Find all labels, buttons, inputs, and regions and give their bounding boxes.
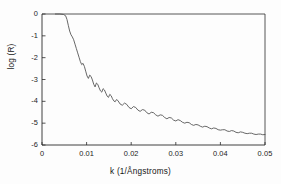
plot-frame xyxy=(42,14,265,145)
x-tick-label: 0.05 xyxy=(258,150,273,158)
y-tick-label: 0 xyxy=(14,10,38,18)
y-axis-title: log (R) xyxy=(7,29,16,85)
x-tick-label: 0 xyxy=(40,150,44,158)
y-tick-label: -3 xyxy=(14,76,38,84)
x-tick-label: 0.03 xyxy=(168,150,183,158)
x-tick-label: 0.01 xyxy=(79,150,94,158)
y-tick-label: -2 xyxy=(14,54,38,62)
y-tick-label: -5 xyxy=(14,119,38,127)
data-series-line xyxy=(55,14,265,135)
x-tick-label: 0.02 xyxy=(124,150,139,158)
y-tick-label: -4 xyxy=(14,97,38,105)
y-tick-label: -1 xyxy=(14,32,38,40)
y-axis-ticks xyxy=(42,14,46,145)
x-axis-title: k (1/Ångstroms) xyxy=(0,167,281,176)
reflectivity-figure: 00.010.020.030.040.05 0-1-2-3-4-5-6 k (1… xyxy=(0,0,281,184)
x-tick-label: 0.04 xyxy=(213,150,228,158)
y-tick-label: -6 xyxy=(14,141,38,149)
